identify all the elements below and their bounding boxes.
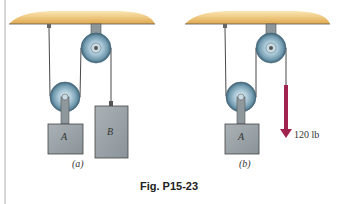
block-b-label: B: [107, 126, 113, 137]
ceiling-b: [185, 11, 330, 24]
panel-a-label: (a): [72, 158, 84, 169]
panel-a: [9, 11, 155, 158]
force-label: 120 lb: [294, 129, 319, 140]
force-arrow: [284, 85, 288, 130]
figure-caption: Fig. P15-23: [140, 180, 198, 192]
block-a-label-b: A: [238, 131, 244, 142]
block-a-label: A: [61, 131, 67, 142]
ceiling-a: [9, 11, 155, 24]
anchor-hook-b: [223, 24, 227, 28]
anchor-hook-a: [47, 24, 51, 28]
force-arrow-head: [280, 129, 292, 138]
panel-b-label: (b): [239, 158, 251, 169]
pulley-diagram: [0, 0, 345, 204]
